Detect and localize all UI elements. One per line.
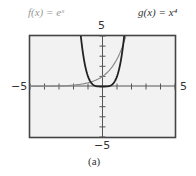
x-min-label: −5 [11,80,27,93]
y-min-label: −5 [94,139,110,152]
x-max-label: 5 [180,80,187,93]
y-max-label: 5 [98,19,105,32]
figure-caption: (a) [88,155,100,167]
